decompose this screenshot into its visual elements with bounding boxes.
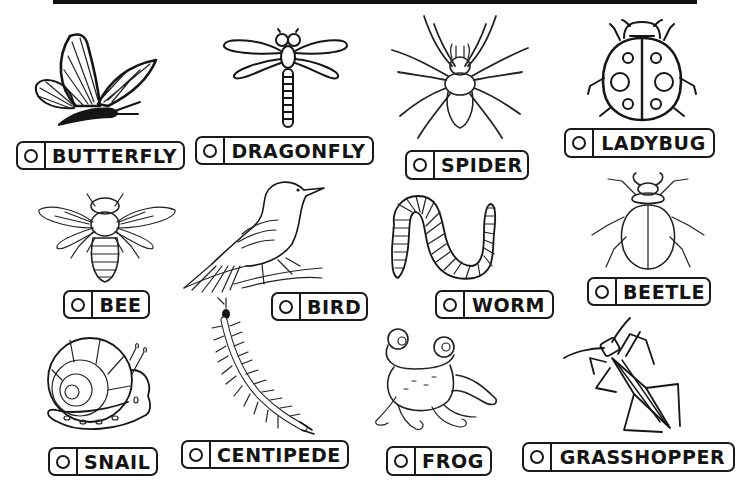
label-text: LADYBUG (594, 130, 713, 156)
radio-circle-icon (443, 298, 457, 312)
spider-drawing (390, 14, 530, 142)
checkbox-frog[interactable] (388, 448, 416, 474)
bee-drawing (35, 188, 180, 284)
option-bee[interactable]: BEE (63, 290, 150, 319)
label-text: BEE (93, 292, 148, 317)
label-text: SPIDER (435, 152, 529, 178)
option-ladybug[interactable]: LADYBUG (564, 128, 715, 158)
option-frog[interactable]: FROG (386, 446, 492, 476)
radio-circle-icon (71, 298, 85, 312)
bird-drawing (182, 180, 327, 288)
checkbox-beetle[interactable] (589, 279, 617, 304)
title-box (53, 0, 697, 4)
option-grasshopper[interactable]: GRASSHOPPER (522, 442, 735, 472)
option-snail[interactable]: SNAIL (48, 447, 158, 476)
label-text: FROG (416, 448, 490, 474)
option-centipede[interactable]: CENTIPEDE (181, 440, 349, 469)
dragonfly-drawing (220, 27, 350, 130)
label-text: BEETLE (617, 279, 711, 304)
label-text: SNAIL (78, 449, 156, 474)
radio-circle-icon (530, 450, 544, 464)
checkbox-bee[interactable] (65, 292, 93, 317)
checkbox-snail[interactable] (50, 449, 78, 474)
radio-circle-icon (24, 149, 38, 163)
option-butterfly[interactable]: BUTTERFLY (16, 141, 185, 170)
option-bird[interactable]: BIRD (271, 292, 368, 321)
radio-circle-icon (572, 136, 586, 150)
checkbox-bird[interactable] (273, 294, 301, 319)
checkbox-butterfly[interactable] (18, 143, 46, 168)
beetle-drawing (588, 173, 708, 273)
checkbox-grasshopper[interactable] (524, 444, 552, 470)
frog-drawing (372, 325, 502, 437)
label-text: BUTTERFLY (46, 143, 183, 168)
label-text: WORM (465, 292, 552, 317)
grasshopper-drawing (560, 318, 685, 438)
radio-circle-icon (203, 144, 217, 158)
checkbox-dragonfly[interactable] (197, 138, 225, 163)
label-text: GRASSHOPPER (552, 444, 733, 470)
option-worm[interactable]: WORM (435, 290, 554, 319)
label-text: DRAGONFLY (225, 138, 372, 163)
worm-drawing (388, 190, 503, 282)
radio-circle-icon (595, 285, 609, 299)
radio-circle-icon (189, 448, 203, 462)
ladybug-drawing (580, 16, 705, 124)
radio-circle-icon (394, 454, 408, 468)
checkbox-centipede[interactable] (183, 442, 211, 467)
checkbox-worm[interactable] (437, 292, 465, 317)
snail-drawing (40, 330, 165, 438)
option-spider[interactable]: SPIDER (405, 150, 529, 180)
label-text: CENTIPEDE (211, 442, 347, 467)
butterfly-drawing (28, 28, 163, 133)
checkbox-spider[interactable] (407, 152, 435, 178)
radio-circle-icon (56, 455, 70, 469)
option-dragonfly[interactable]: DRAGONFLY (195, 136, 374, 165)
radio-circle-icon (279, 300, 293, 314)
option-beetle[interactable]: BEETLE (587, 277, 711, 306)
radio-circle-icon (413, 158, 427, 172)
checkbox-ladybug[interactable] (566, 130, 594, 156)
label-text: BIRD (301, 294, 367, 319)
